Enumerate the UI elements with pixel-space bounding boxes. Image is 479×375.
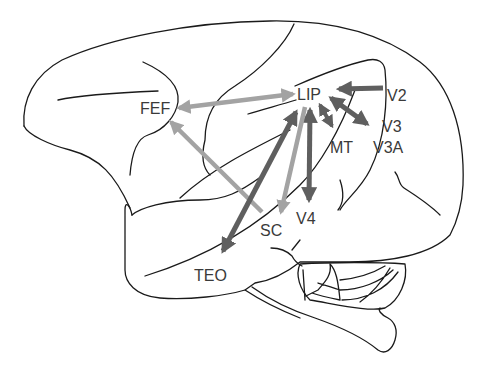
arrow-v2-lip bbox=[339, 88, 383, 89]
cerebrum-outline bbox=[24, 21, 463, 299]
arcuate-sulcus bbox=[130, 62, 178, 175]
arrow-lip-mt bbox=[320, 105, 332, 126]
label-mt: MT bbox=[330, 139, 353, 156]
lunate-sulcus bbox=[395, 172, 440, 215]
label-sc: SC bbox=[260, 222, 282, 239]
brainstem-lower bbox=[245, 290, 300, 318]
label-v4: V4 bbox=[296, 210, 316, 227]
arrow-lip-v3 bbox=[331, 98, 367, 124]
label-teo: TEO bbox=[194, 267, 227, 284]
label-v3a: V3A bbox=[373, 139, 404, 156]
occipital-notch bbox=[338, 180, 343, 210]
parietal-sulcus-small bbox=[248, 100, 296, 114]
principal-sulcus bbox=[58, 91, 158, 100]
label-lip: LIP bbox=[297, 86, 321, 103]
superior-temporal-sulcus bbox=[145, 90, 355, 276]
label-v2: V2 bbox=[387, 87, 407, 104]
v4-branch bbox=[271, 240, 302, 266]
brain-outline bbox=[24, 21, 463, 352]
label-fef: FEF bbox=[140, 100, 170, 117]
arrow-lip-v4 bbox=[309, 110, 310, 200]
label-v3: V3 bbox=[382, 118, 402, 135]
area-labels: LIP FEF V2 V3 V3A MT V4 SC TEO bbox=[140, 86, 407, 284]
cerebellum-folia bbox=[303, 264, 398, 302]
brain-diagram: LIP FEF V2 V3 V3A MT V4 SC TEO bbox=[0, 0, 479, 375]
frontal-inferior-outline bbox=[24, 126, 130, 208]
